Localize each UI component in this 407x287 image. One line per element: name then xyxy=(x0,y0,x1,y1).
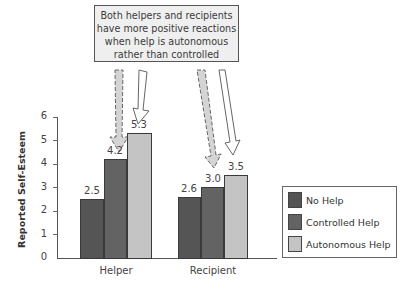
legend-item-no-help: No Help xyxy=(288,191,344,209)
bar-value-label: 5.3 xyxy=(124,119,154,130)
legend-label: No Help xyxy=(306,195,344,206)
y-axis-label: Reported Self-Esteem xyxy=(16,125,27,255)
bar-recipient-autonomous-help xyxy=(224,175,248,259)
y-tick-label: 3 xyxy=(33,181,47,192)
bar-helper-no-help xyxy=(80,199,104,259)
y-tick-label: 5 xyxy=(33,134,47,145)
y-tick xyxy=(53,234,58,235)
y-tick-label: 1 xyxy=(33,228,47,239)
bar-recipient-no-help xyxy=(178,197,201,259)
y-tick-label: 2 xyxy=(33,204,47,215)
bar-helper-autonomous-help xyxy=(127,133,152,259)
bar-recipient-controlled-help xyxy=(201,187,224,259)
y-tick-label: 6 xyxy=(33,110,47,121)
legend-label: Controlled Help xyxy=(306,217,380,228)
x-category-label: Helper xyxy=(76,265,156,276)
y-tick-label: 4 xyxy=(33,157,47,168)
legend-swatch xyxy=(288,236,302,252)
bar-value-label: 3.5 xyxy=(221,161,251,172)
bar-value-label: 2.6 xyxy=(174,183,204,194)
legend-swatch xyxy=(288,214,302,230)
legend: No Help Controlled Help Autonomous Help xyxy=(282,186,397,258)
bar-helper-controlled-help xyxy=(104,159,127,259)
legend-item-controlled-help: Controlled Help xyxy=(288,213,380,231)
y-tick xyxy=(53,187,58,188)
dashed-arrow-icon xyxy=(197,70,221,168)
bar-value-label: 3.0 xyxy=(198,173,228,184)
y-tick xyxy=(53,117,58,118)
bar-value-label: 2.5 xyxy=(77,185,107,196)
y-tick xyxy=(53,211,58,212)
outline-arrow-icon xyxy=(133,70,149,124)
dashed-arrow-icon xyxy=(110,70,128,152)
bar-value-label: 4.2 xyxy=(100,145,130,156)
y-tick-label: 0 xyxy=(33,251,47,262)
legend-item-autonomous-help: Autonomous Help xyxy=(288,235,391,253)
outline-arrow-icon xyxy=(219,70,240,155)
y-axis-line xyxy=(57,117,58,259)
legend-label: Autonomous Help xyxy=(306,239,391,250)
y-tick xyxy=(53,140,58,141)
y-tick xyxy=(53,164,58,165)
x-category-label: Recipient xyxy=(173,265,253,276)
legend-swatch xyxy=(288,192,302,208)
